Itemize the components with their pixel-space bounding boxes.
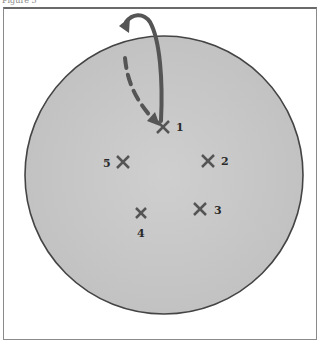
petri-dish-diagram: 1 2 3 4 5 bbox=[0, 0, 323, 345]
solid-arrowhead-icon bbox=[119, 17, 130, 33]
petri-dish bbox=[25, 36, 303, 314]
mark-label-1: 1 bbox=[176, 121, 184, 134]
mark-label-4: 4 bbox=[137, 227, 145, 240]
mark-label-5: 5 bbox=[103, 157, 111, 170]
mark-label-2: 2 bbox=[221, 155, 229, 168]
mark-label-3: 3 bbox=[214, 204, 222, 217]
